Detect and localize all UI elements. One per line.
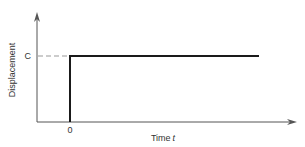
step-series-line [70,56,259,122]
chart-canvas: C 0 Displacement Timet [0,0,305,147]
x-axis-label-text: Time [151,133,171,143]
x-tick-0-label: 0 [67,125,72,135]
x-axis-label: Timet [151,133,176,143]
y-axis-label: Displacement [7,42,17,97]
y-tick-c-label: C [25,51,32,61]
x-axis-label-var: t [173,133,176,143]
